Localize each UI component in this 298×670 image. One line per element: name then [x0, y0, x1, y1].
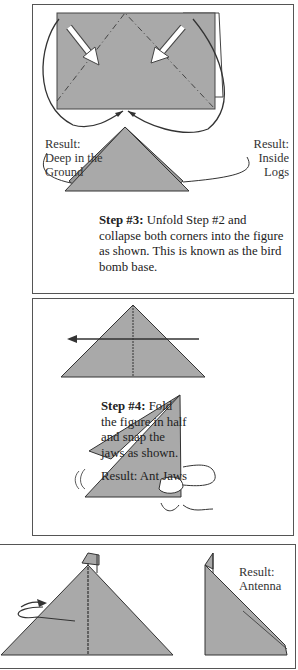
step5-panel: Result: Antenna [0, 544, 296, 669]
step-label: Step #3: [99, 213, 143, 227]
caption-line: and snap the [101, 430, 201, 446]
caption-line: jaws as shown. [101, 446, 201, 462]
step-text: Fold [145, 399, 172, 413]
step4-panel: Step #4: Fold the figure in half and sna… [32, 298, 294, 536]
step4-caption: Step #4: Fold the figure in half and sna… [101, 399, 201, 485]
caption-line: the figure in half [101, 415, 201, 431]
caption-line: Step #4: Fold [101, 399, 201, 415]
result-deep-in-ground-label: Result: Deep in the Ground [45, 137, 103, 179]
label-line: Result: [239, 565, 281, 579]
label-line: Deep in the [45, 151, 103, 165]
label-line: Logs [209, 165, 289, 179]
label-line: Result: [45, 137, 103, 151]
label-line: Antenna [239, 579, 281, 593]
label-line: Ground [45, 165, 103, 179]
step-label: Step #4: [101, 399, 145, 413]
label-line: Result: [209, 137, 289, 151]
result-inside-logs-label: Result: Inside Logs [209, 137, 289, 179]
label-line: Inside [209, 151, 289, 165]
step3-panel: Result: Deep in the Ground Result: Insid… [32, 4, 294, 294]
result-ant-jaws-label: Result: Ant Jaws [101, 469, 201, 485]
result-antenna-label: Result: Antenna [239, 565, 281, 593]
step5-diagram [0, 545, 297, 670]
step3-caption: Step #3: Unfold Step #2 and collapse bot… [99, 213, 285, 275]
